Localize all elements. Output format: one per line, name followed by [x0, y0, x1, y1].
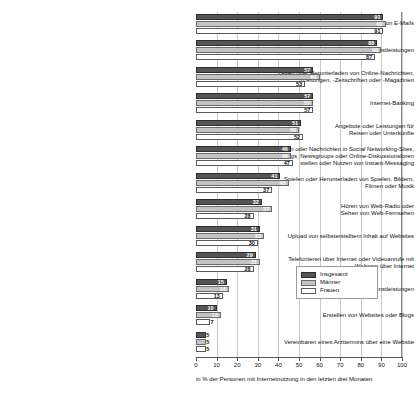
bar-value-label: 57	[304, 93, 310, 100]
bar: 10	[196, 305, 217, 311]
bar-value-label: 30	[249, 240, 255, 247]
x-tick	[340, 357, 341, 361]
bar-group: 555	[196, 332, 402, 353]
bar-value-label: 88	[368, 40, 374, 47]
legend-item-label: Frauen	[320, 287, 339, 294]
bar-value-label: 45	[280, 180, 286, 187]
bar-value-label: 13	[214, 293, 220, 300]
bar: 88	[196, 40, 377, 46]
bar-value-label: 5	[206, 339, 209, 346]
bar-value-label: 91	[374, 28, 380, 35]
bar-value-label: 47	[284, 160, 290, 167]
bar: 5	[196, 346, 206, 352]
bar: 37	[196, 187, 272, 193]
bar: 47	[196, 160, 293, 166]
x-tick	[258, 357, 259, 361]
bar-value-label: 33	[255, 233, 261, 240]
bar-value-label: 10	[207, 305, 213, 312]
bar-value-label: 52	[294, 134, 300, 141]
bar: 57	[196, 67, 313, 73]
bar-group: 576053	[196, 67, 402, 88]
bar: 45	[196, 180, 289, 186]
legend-swatch-icon	[301, 288, 316, 294]
bar-value-label: 87	[366, 54, 372, 61]
x-tick-label: 10	[207, 362, 227, 369]
bar-value-label: 12	[212, 312, 218, 319]
x-tick	[381, 357, 382, 361]
bar-group: 10127	[196, 305, 402, 326]
bar-value-label: 32	[253, 199, 259, 206]
x-tick-label: 100	[392, 362, 412, 369]
bar: 5	[196, 332, 206, 338]
bar-group: 313330	[196, 226, 402, 247]
x-tick-label: 40	[268, 362, 288, 369]
bar: 13	[196, 293, 223, 299]
bar-value-label: 41	[271, 173, 277, 180]
bar: 57	[196, 100, 313, 106]
bar-group: 323728	[196, 199, 402, 220]
bar: 60	[196, 74, 320, 80]
bar-value-label: 16	[220, 286, 226, 293]
bar-value-label: 57	[304, 107, 310, 114]
x-tick	[361, 357, 362, 361]
bar: 41	[196, 173, 280, 179]
bar-value-label: 50	[290, 127, 296, 134]
bar: 33	[196, 233, 264, 239]
bar-value-label: 5	[206, 332, 209, 339]
x-tick-label: 0	[186, 362, 206, 369]
bar: 91	[196, 28, 383, 34]
bar-value-label: 28	[245, 266, 251, 273]
bar-value-label: 91	[374, 14, 380, 21]
bar: 15	[196, 279, 227, 285]
bar: 31	[196, 259, 260, 265]
bar: 91	[196, 14, 383, 20]
bar: 7	[196, 319, 210, 325]
x-tick	[402, 357, 403, 361]
bar-value-label: 90	[372, 47, 378, 54]
bar-value-label: 5	[206, 346, 209, 353]
bar: 28	[196, 266, 254, 272]
bar: 57	[196, 107, 313, 113]
x-tick	[237, 357, 238, 361]
bar-value-label: 51	[292, 120, 298, 127]
bar-value-label: 57	[304, 100, 310, 107]
legend-item-insgesamt: Insgesamt	[301, 271, 373, 278]
bar: 46	[196, 146, 291, 152]
x-tick-label: 50	[289, 362, 309, 369]
bar: 29	[196, 252, 256, 258]
bar: 37	[196, 206, 272, 212]
x-tick	[299, 357, 300, 361]
bar-value-label: 46	[282, 146, 288, 153]
bar: 52	[196, 134, 303, 140]
bar: 90	[196, 47, 381, 53]
x-tick-label: 90	[371, 362, 391, 369]
bar: 87	[196, 54, 375, 60]
bar: 32	[196, 199, 262, 205]
x-tick-label: 70	[330, 362, 350, 369]
bar-group: 515052	[196, 120, 402, 141]
bar: 16	[196, 286, 229, 292]
x-tick-label: 20	[227, 362, 247, 369]
bar: 28	[196, 213, 254, 219]
bar-value-label: 37	[263, 206, 269, 213]
bar-group: 889087	[196, 40, 402, 61]
bar: 31	[196, 226, 260, 232]
x-axis-caption: in % der Personen mit Internetnutzung in…	[196, 375, 418, 383]
bar: 53	[196, 81, 305, 87]
bar-value-label: 15	[218, 279, 224, 286]
bar-value-label: 57	[304, 67, 310, 74]
x-tick-label: 30	[248, 362, 268, 369]
bar-value-label: 46	[282, 153, 288, 160]
bar-group: 575757	[196, 93, 402, 114]
bar: 51	[196, 120, 301, 126]
bar-value-label: 31	[251, 226, 257, 233]
x-tick-label: 80	[351, 362, 371, 369]
bar: 50	[196, 127, 299, 133]
legend-item-frauen: Frauen	[301, 287, 373, 294]
bar-chart: 0102030405060708090100 Versenden oder Em…	[0, 0, 418, 409]
x-tick	[196, 357, 197, 361]
bar-value-label: 60	[310, 74, 316, 81]
bar: 12	[196, 312, 221, 318]
bar: 92	[196, 21, 386, 27]
bar: 57	[196, 93, 313, 99]
